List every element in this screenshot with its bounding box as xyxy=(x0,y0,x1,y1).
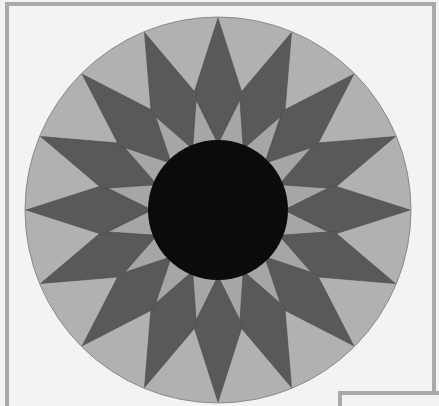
sunburst-quilt-block xyxy=(0,0,439,406)
center-circle xyxy=(148,140,288,280)
